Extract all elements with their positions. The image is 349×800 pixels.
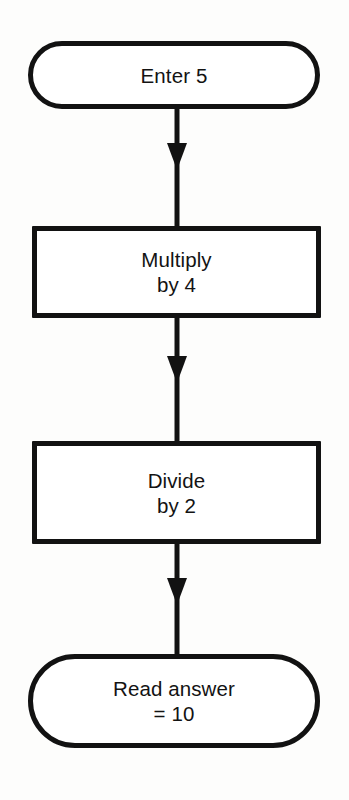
edge-enter-multiply (167, 106, 187, 228)
flowchart-canvas: Enter 5 Multiply by 4 Divide by 2 Read a… (0, 0, 349, 800)
flow-node-enter-label: Enter 5 (141, 63, 208, 88)
flow-node-enter[interactable]: Enter 5 (28, 41, 320, 109)
edge-divide-read (167, 542, 187, 657)
flow-node-divide-label: Divide by 2 (148, 468, 206, 518)
flow-node-read[interactable]: Read answer = 10 (28, 654, 320, 748)
flow-node-read-label: Read answer = 10 (113, 676, 235, 726)
edge-multiply-divide (167, 316, 187, 443)
flow-node-divide[interactable]: Divide by 2 (32, 441, 321, 544)
flow-node-multiply[interactable]: Multiply by 4 (32, 226, 321, 318)
flow-node-multiply-label: Multiply by 4 (141, 247, 211, 297)
